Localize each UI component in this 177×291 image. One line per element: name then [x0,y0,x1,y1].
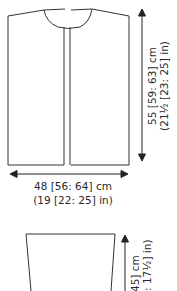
sleeve-length-cm: 45] cm [129,255,141,291]
arrow-right-icon [121,171,128,178]
body-outline-right [71,9,129,165]
sleeve-length-arrow [122,235,129,291]
body-width-arrow [10,171,128,178]
neckline [44,9,92,29]
sleeve-length-in: : 17½] in) [141,239,153,291]
sleeve-outline [26,234,115,291]
body-piece [8,9,129,165]
arrow-up-icon [122,235,129,242]
arrow-left-icon [10,171,17,178]
body-width-in: (19 [22: 25] in) [33,194,113,206]
body-width-cm: 48 [56: 64] cm [34,180,112,192]
arrow-up-icon [139,9,146,16]
arrow-down-icon [139,154,146,161]
schematic-diagram: 55 [59: 63] cm (21½ [23: 25] in) 48 [56:… [0,0,177,291]
body-length-cm: 55 [59: 63] cm [146,47,158,125]
body-length-arrow [139,9,146,161]
body-outline-left [8,9,65,165]
sleeve-piece [26,234,115,291]
body-length-in: (21½ [23: 25] in) [158,41,170,131]
